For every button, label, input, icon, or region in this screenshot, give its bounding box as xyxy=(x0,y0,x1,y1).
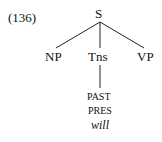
tns-value-past: PAST xyxy=(87,92,111,102)
node-np: NP xyxy=(45,50,62,63)
node-s: S xyxy=(95,7,102,20)
tns-value-pres: PRES xyxy=(88,106,112,116)
node-vp: VP xyxy=(137,50,154,63)
example-number: (136) xyxy=(8,11,36,24)
tns-value-will: will xyxy=(91,119,109,132)
node-tns: Tns xyxy=(88,50,108,63)
